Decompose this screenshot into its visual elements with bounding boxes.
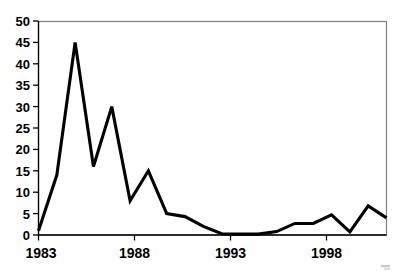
x-tick-label: 1988 <box>119 245 150 261</box>
line-chart: 0 5 10 15 20 25 30 35 40 45 50 1983 1988… <box>0 0 396 273</box>
chart-background <box>0 0 396 273</box>
y-tick-label: 15 <box>16 164 30 179</box>
y-tick-label: 10 <box>16 185 30 200</box>
y-tick-label: 40 <box>16 57 30 72</box>
scan-artifact <box>381 265 390 267</box>
y-tick-label: 30 <box>16 100 30 115</box>
y-tick-label: 20 <box>16 142 30 157</box>
chart-canvas: 0 5 10 15 20 25 30 35 40 45 50 1983 1988… <box>0 0 396 273</box>
y-tick-label: 25 <box>16 121 30 136</box>
y-tick-label: 35 <box>16 78 30 93</box>
x-tick-label: 1983 <box>25 245 56 261</box>
y-tick-label: 50 <box>16 14 30 29</box>
y-tick-label: 5 <box>23 207 30 222</box>
scan-artifact <box>384 268 390 270</box>
y-tick-label: 45 <box>16 35 30 50</box>
y-tick-label: 0 <box>23 228 30 243</box>
x-tick-label: 1993 <box>215 245 246 261</box>
x-tick-label: 1998 <box>311 245 342 261</box>
